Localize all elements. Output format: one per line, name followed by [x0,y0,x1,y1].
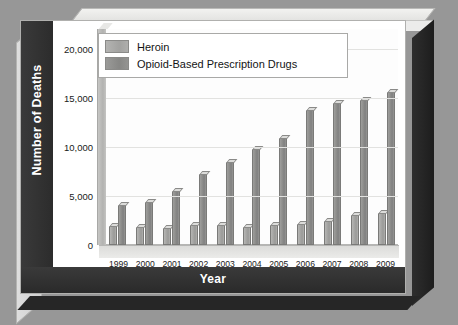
legend-item: Opioid-Based Prescription Drugs [105,55,341,72]
bar-body [333,103,341,245]
bar-top-cap [333,100,344,104]
bar-body [217,225,225,245]
bar-heroin [243,227,251,245]
y-tick-label: 0 [88,240,93,251]
bar-opioid [306,110,314,245]
bar-body [163,228,171,245]
bar-body [243,227,251,245]
bar-group [378,29,395,245]
legend-swatch-heroin [105,40,129,53]
bar-opioid [199,174,207,245]
bar-opioid [145,202,153,245]
bar-body [252,149,260,245]
x-axis-title-band: Year [21,267,405,293]
bar-top-cap [118,202,129,206]
bar-body [109,226,117,245]
bar-top-cap [199,171,210,175]
y-tick-label: 10,000 [64,141,93,152]
bar-heroin [270,225,278,245]
bar-body [190,225,198,245]
bar-top-cap [172,188,183,192]
bar-opioid [226,162,234,245]
bar-opioid [360,100,368,245]
bar-opioid [118,205,126,245]
bar-heroin [136,227,144,245]
chart-face: Number of Deaths 05,00010,00015,00020,00… [20,20,406,294]
bar-heroin [351,215,359,245]
bar-heroin [109,226,117,245]
frame-bottom-shadow [17,296,420,310]
y-axis-tick-labels: 05,00010,00015,00020,000 [53,21,97,267]
y-tick-label: 15,000 [64,92,93,103]
bar-top-cap [306,107,317,111]
legend-item: Heroin [105,38,341,55]
bar-body [279,138,287,245]
y-axis-title-band: Number of Deaths [21,21,53,267]
legend-label: Heroin [137,41,169,53]
bar-opioid [172,191,180,245]
legend-label: Opioid-Based Prescription Drugs [137,58,297,70]
bar-heroin [324,221,332,245]
y-tick-label: 20,000 [64,43,93,54]
gridline [106,98,398,99]
frame-right-shadow [412,20,434,306]
x-axis-title: Year [21,272,405,286]
bar-body [378,213,386,245]
y-axis-title: Number of Deaths [30,30,44,210]
bar-opioid [252,149,260,245]
bar-group [351,29,368,245]
bar-body [297,224,305,245]
bar-body [387,92,395,245]
gridline [106,147,398,148]
bar-heroin [190,225,198,245]
bar-body [226,162,234,245]
bar-top-cap [387,89,398,93]
bar-body [118,205,126,245]
bar-heroin [163,228,171,245]
bar-body [136,227,144,245]
bar-top-cap [226,159,237,163]
bar-heroin [378,213,386,245]
bar-body [360,100,368,245]
bar-body [351,215,359,245]
bar-top-cap [279,135,290,139]
y-tick-label: 5,000 [69,190,93,201]
bar-body [145,202,153,245]
bar-body [270,225,278,245]
bar-heroin [217,225,225,245]
bar-body [199,174,207,245]
chart-legend: HeroinOpioid-Based Prescription Drugs [98,33,348,78]
bar-top-cap [145,199,156,203]
legend-swatch-opioid [105,57,129,70]
bar-opioid [333,103,341,245]
bar-opioid [279,138,287,245]
bar-body [172,191,180,245]
bar-body [306,110,314,245]
bar-body [324,221,332,245]
gridline [106,196,398,197]
bar-opioid [387,92,395,245]
plot-floor [99,245,399,258]
bar-heroin [297,224,305,245]
